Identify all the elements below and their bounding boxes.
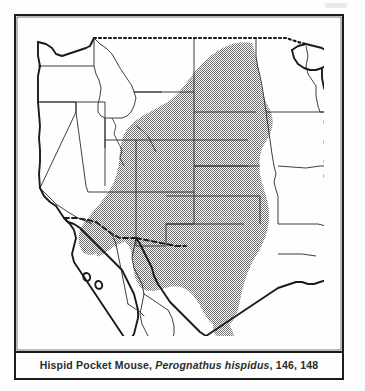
caption-text: Hispid Pocket Mouse, Perognathus hispidu… [40,360,319,371]
caption-scientific-name: Perognathus hispidus [155,359,269,371]
scan-artifact [325,3,347,8]
map-graphic [16,16,342,351]
caption-box: Hispid Pocket Mouse, Perognathus hispidu… [16,353,342,378]
distribution-map-figure: Hispid Pocket Mouse, Perognathus hispidu… [0,0,365,391]
map-area [16,16,342,351]
caption-page-references: 146, 148 [276,359,318,371]
caption-common-name: Hispid Pocket Mouse, [40,359,153,371]
map-plate: Hispid Pocket Mouse, Perognathus hispidu… [14,14,344,380]
caption-separator: , [270,359,273,371]
